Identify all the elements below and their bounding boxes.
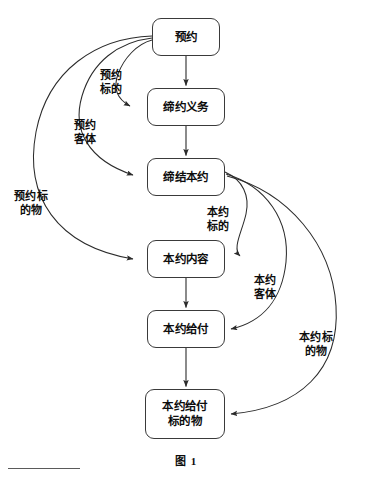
node-diyue-yiwu-label: 缔约义务: [163, 100, 209, 115]
figure-caption: 图 1: [0, 452, 372, 468]
figure-container: 预约 缔约义务 缔结本约 本约内容 本约给付 本约给付 标的物 预约 标的 预约…: [0, 0, 372, 485]
node-yuyue[interactable]: 预约: [152, 18, 220, 56]
edge-label-yuyue-biaodewu: 预约标 的物: [14, 190, 48, 218]
curve-yuyue-to-dijie-benyue: [79, 38, 152, 175]
node-benyue-neirong[interactable]: 本约内容: [147, 240, 225, 278]
curve-dijie-benyue-to-benyue-geifu: [226, 174, 286, 329]
curve-dijie-benyue-to-benyue-geifu-biaodewu: [227, 176, 336, 414]
edge-label-yuyue-keti: 预约 客体: [74, 119, 97, 147]
footnote-separator: [8, 468, 80, 469]
node-benyue-geifu-biaodewu[interactable]: 本约给付 标的物: [145, 389, 225, 439]
node-diyue-yiwu[interactable]: 缔约义务: [147, 88, 225, 126]
node-yuyue-label: 预约: [175, 30, 198, 45]
node-dijie-benyue-label: 缔结本约: [163, 170, 209, 185]
node-benyue-neirong-label: 本约内容: [163, 252, 209, 267]
node-benyue-geifu-biaodewu-label: 本约给付 标的物: [162, 399, 208, 428]
curve-yuyue-to-benyue-neirong: [34, 36, 152, 259]
node-dijie-benyue[interactable]: 缔结本约: [147, 158, 225, 196]
edge-label-benyue-biaodewu: 本约标 的物: [299, 331, 333, 359]
edge-label-benyue-keti: 本约 客体: [254, 274, 277, 302]
edge-label-yuyue-biaode: 预约 标的: [100, 69, 123, 97]
node-benyue-geifu[interactable]: 本约给付: [147, 310, 225, 348]
edge-label-benyue-biaode: 本约 标的: [207, 206, 230, 234]
node-benyue-geifu-label: 本约给付: [163, 322, 209, 337]
